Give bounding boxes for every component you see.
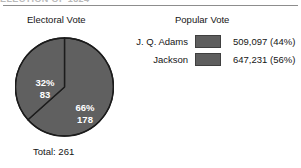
slice-label-adams-count: 83 xyxy=(40,89,51,100)
chart-figure: ELECTION OF 1824 Electoral Vote Popular … xyxy=(0,0,301,168)
popular-vote-title: Popular Vote xyxy=(175,14,229,25)
electoral-total-label: Total: 261 xyxy=(33,146,74,157)
legend-swatch-jq-adams xyxy=(195,35,221,48)
legend-value-jackson: 647,231 (56%) xyxy=(233,54,295,65)
legend-row-jackson: Jackson 647,231 (56%) xyxy=(128,51,300,68)
legend-row-jq-adams: J. Q. Adams 509,097 (44%) xyxy=(128,33,300,50)
slice-label-jackson-percent: 66% xyxy=(75,102,95,113)
legend-value-jq-adams: 509,097 (44%) xyxy=(233,36,295,47)
popular-vote-legend: J. Q. Adams 509,097 (44%) Jackson 647,23… xyxy=(128,33,300,69)
legend-label-jackson: Jackson xyxy=(128,54,188,65)
electoral-vote-title: Electoral Vote xyxy=(27,14,86,25)
slice-label-jackson-count: 178 xyxy=(77,114,93,125)
legend-label-jq-adams: J. Q. Adams xyxy=(128,36,188,47)
legend-swatch-jackson xyxy=(195,53,221,66)
horizontal-rule xyxy=(3,5,298,6)
slice-label-adams-percent: 32% xyxy=(35,77,55,88)
cropped-caption-sliver: ELECTION OF 1824 xyxy=(0,0,170,3)
electoral-vote-pie-chart: 32% 83 66% 178 xyxy=(15,32,114,142)
